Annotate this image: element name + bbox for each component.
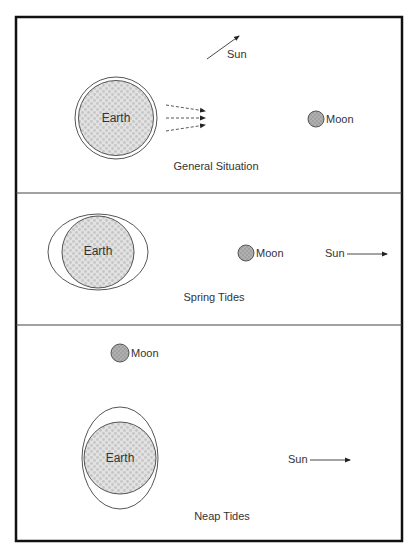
sun-label: Sun xyxy=(288,453,308,465)
moon-icon xyxy=(308,111,324,127)
sun-label: Sun xyxy=(227,48,247,60)
moon-label: Moon xyxy=(326,113,354,125)
earth-label: Earth xyxy=(84,244,113,258)
panel-caption: General Situation xyxy=(174,160,259,172)
moon-label: Moon xyxy=(256,247,284,259)
earth-label: Earth xyxy=(102,111,131,125)
moon-icon xyxy=(238,245,254,261)
panel-caption: Neap Tides xyxy=(194,510,250,522)
panel-caption: Spring Tides xyxy=(183,291,245,303)
panel-neap-tides: Moon Earth Sun Neap Tides xyxy=(82,344,350,522)
moon-label: Moon xyxy=(131,347,159,359)
panel-spring-tides: Earth Moon Sun Spring Tides xyxy=(48,214,387,303)
tides-diagram: Earth Moon Sun General Situation Earth M… xyxy=(0,0,415,558)
panel-general-situation: Earth Moon Sun General Situation xyxy=(75,36,354,172)
earth-label: Earth xyxy=(106,451,135,465)
sun-label: Sun xyxy=(325,247,345,259)
moon-icon xyxy=(111,344,129,362)
gravity-arrows xyxy=(166,105,205,131)
